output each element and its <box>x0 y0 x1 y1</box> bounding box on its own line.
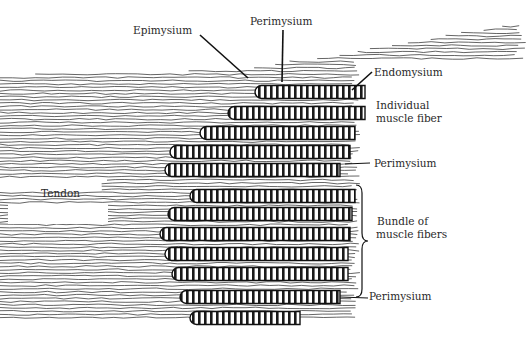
tendon-fiber-line <box>431 39 522 40</box>
label-perimysium-bottom: Perimysium <box>369 290 432 302</box>
tendon-fiber-line <box>102 186 352 187</box>
muscle-fiber <box>190 190 355 203</box>
tendon-fiber-line <box>107 179 354 181</box>
tendon-fiber-line <box>0 285 354 287</box>
tendon-fiber-line <box>502 26 519 27</box>
tendon-fiber-line <box>0 77 352 79</box>
muscle-fiber <box>180 291 340 304</box>
tendon-fiber-line <box>0 262 355 264</box>
tendon-fiber-line <box>0 122 355 124</box>
tendon-fiber-line <box>0 160 350 162</box>
tendon-label-bg <box>8 204 108 224</box>
tendon-fiber-line <box>0 282 356 284</box>
tendon-fiber-line <box>0 317 355 319</box>
tendon-fiber-line <box>0 99 358 101</box>
label-individual-fiber-2: muscle fiber <box>376 112 443 124</box>
tendon-fiber-line <box>254 67 355 69</box>
tendon-fiber-line <box>102 183 360 184</box>
muscle-fiber <box>255 86 365 99</box>
muscle-fiber <box>170 146 350 159</box>
label-bundle-1: Bundle of <box>377 215 429 227</box>
muscle-tendon-illustration: Epimysium Perimysium Endomysium Individu… <box>0 0 526 342</box>
tendon-fiber-line <box>290 61 354 62</box>
tendon-fiber-line <box>0 304 356 306</box>
muscle-fiber <box>172 268 348 281</box>
tendon-fiber-line <box>0 80 354 82</box>
tendon-fiber-line <box>0 102 354 104</box>
tendon-fiber-line <box>484 29 517 30</box>
label-bundle-2: muscle fibers <box>376 228 447 240</box>
label-epimysium: Epimysium <box>133 24 192 36</box>
tendon-fiber-line <box>461 32 519 33</box>
tendon-fiber-line <box>358 51 517 52</box>
label-endomysium: Endomysium <box>374 66 443 78</box>
label-individual-fiber-1: Individual <box>376 99 430 111</box>
label-perimysium-mid: Perimysium <box>374 157 437 169</box>
muscle-fiber <box>228 107 365 120</box>
muscle-fiber <box>160 228 350 241</box>
tendon-fiber-line <box>340 54 515 55</box>
tendon-fiber-line <box>408 42 526 43</box>
tendon-fiber-line <box>446 35 522 37</box>
tendon-fiber-line <box>275 64 356 66</box>
label-perimysium-top: Perimysium <box>250 15 313 27</box>
tendon-fiber-line <box>0 83 352 84</box>
tendon-fiber-line <box>0 307 356 309</box>
tendon-fiber-line <box>370 48 525 49</box>
muscle-fiber <box>190 312 300 325</box>
tendon-fiber-line <box>0 141 356 143</box>
tendon-fiber-line <box>35 74 359 76</box>
muscle-fiber <box>200 127 355 140</box>
tendon-fiber-line <box>392 45 518 46</box>
muscle-fiber <box>165 164 340 177</box>
tendon-fiber-line <box>317 58 523 60</box>
muscle-fiber <box>168 208 352 221</box>
muscle-fiber <box>165 248 348 261</box>
tendon-fiber-line <box>0 288 358 290</box>
tendon-fiber-line <box>0 243 359 245</box>
tendon-fiber-line <box>189 70 358 71</box>
label-tendon: Tendon <box>41 187 80 199</box>
tendon-fiber-line <box>0 224 348 226</box>
